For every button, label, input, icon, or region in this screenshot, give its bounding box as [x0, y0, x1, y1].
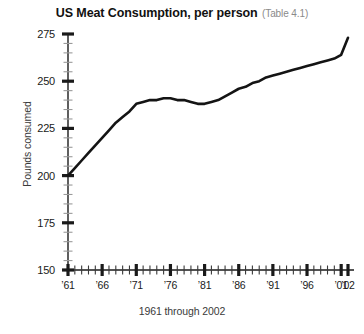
- y-tick-label: 250: [37, 75, 55, 87]
- x-tick-label: ’81: [198, 279, 212, 291]
- y-tick-label: 200: [37, 170, 55, 182]
- y-tick-label: 175: [37, 217, 55, 229]
- y-tick-label: 225: [37, 122, 55, 134]
- chart-figure: US Meat Consumption, per person (Table 4…: [0, 0, 364, 334]
- y-tick-label: 275: [37, 28, 55, 40]
- x-tick-label: ’61: [61, 279, 75, 291]
- data-series-line: [68, 38, 348, 176]
- x-tick-label: ’76: [164, 279, 178, 291]
- y-tick-label: 150: [37, 264, 55, 276]
- x-tick-label: ’91: [266, 279, 280, 291]
- y-axis: 150175200225250275: [37, 28, 74, 276]
- x-tick-label: ’71: [130, 279, 144, 291]
- x-axis: ’61’66’71’76’81’86’91’96’01’02: [61, 264, 355, 291]
- x-tick-label: ’86: [232, 279, 246, 291]
- x-tick-label: ’02: [341, 279, 355, 291]
- chart-plot-area: 150175200225250275 ’61’66’71’76’81’86’91…: [0, 0, 364, 334]
- x-tick-label: ’96: [300, 279, 314, 291]
- x-tick-label: ’66: [95, 279, 109, 291]
